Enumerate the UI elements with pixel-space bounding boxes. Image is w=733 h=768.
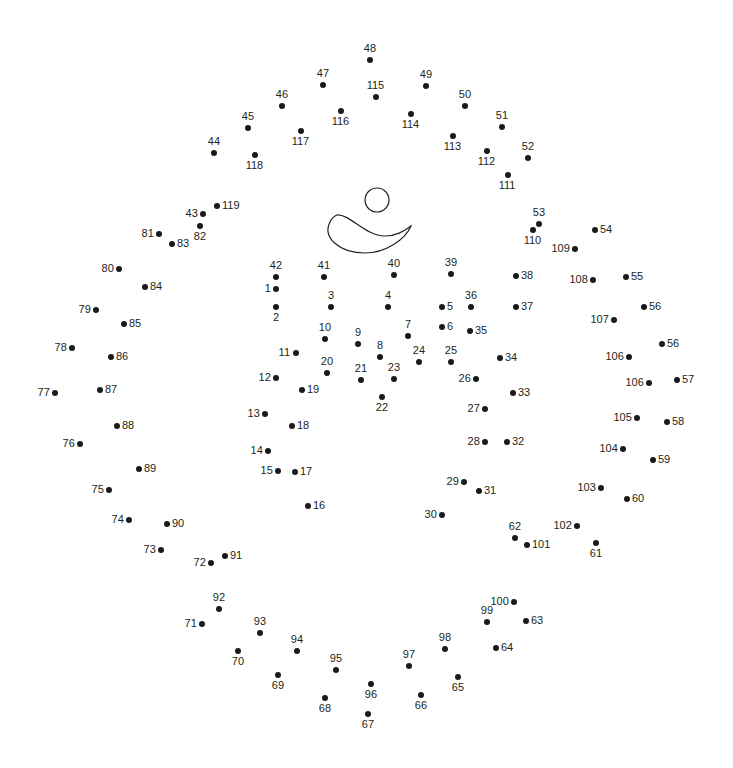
dot-36: [468, 304, 474, 310]
dot-30: [439, 512, 445, 518]
dot-label: 111: [499, 180, 516, 191]
dot-87: [97, 387, 103, 393]
dot-74: [126, 517, 132, 523]
dot-71: [199, 621, 205, 627]
dot-85: [121, 321, 127, 327]
dot-label: 33: [518, 387, 530, 398]
dot-label: 82: [194, 231, 206, 242]
dot-label: 62: [509, 521, 521, 532]
dot-label: 77: [38, 387, 50, 398]
dot-label: 48: [364, 43, 376, 54]
dot-79: [93, 307, 99, 313]
dot-label: 102: [553, 520, 571, 531]
dot-label: 57: [682, 374, 694, 385]
dot-46: [279, 103, 285, 109]
dot-label: 114: [402, 119, 420, 130]
dot-label: 67: [362, 719, 374, 730]
dot-label: 79: [79, 304, 91, 315]
dot-86: [108, 354, 114, 360]
dot-82: [197, 223, 203, 229]
dot-label: 44: [208, 136, 220, 147]
dot-54: [592, 227, 598, 233]
dot-label: 98: [439, 632, 451, 643]
dot-label: 50: [459, 89, 471, 100]
dot-label: 112: [478, 156, 496, 167]
dot-114: [408, 111, 414, 117]
dot-label: 11: [279, 347, 290, 358]
dot-15: [275, 468, 281, 474]
dot-label: 86: [116, 351, 128, 362]
dot-3: [328, 304, 334, 310]
dot-96: [368, 681, 374, 687]
dot-label: 108: [569, 274, 587, 285]
dot-62: [512, 535, 518, 541]
dot-20: [324, 370, 330, 376]
dot-label: 119: [222, 200, 240, 211]
dot-91: [222, 553, 228, 559]
dot-26: [473, 376, 479, 382]
dot-label: 70: [232, 656, 244, 667]
dot-to-dot-canvas: 1234567891011121314151617181920212223242…: [0, 0, 733, 768]
dot-14: [265, 448, 271, 454]
dot-98: [442, 646, 448, 652]
dot-76: [77, 441, 83, 447]
dot-24: [416, 359, 422, 365]
dot-label: 45: [242, 111, 254, 122]
dot-label: 81: [142, 228, 154, 239]
dot-label: 27: [468, 403, 480, 414]
dot-8: [377, 354, 383, 360]
dot-label: 37: [521, 301, 533, 312]
dot-label: 54: [600, 224, 612, 235]
dot-label: 4: [385, 290, 391, 301]
dot-label: 21: [355, 363, 367, 374]
dot-label: 61: [590, 548, 602, 559]
dot-label: 22: [376, 402, 388, 413]
dot-77: [52, 390, 58, 396]
dot-label: 56: [667, 338, 679, 349]
dot-43: [200, 211, 206, 217]
dot-118: [252, 152, 258, 158]
dot-95: [333, 667, 339, 673]
dot-label: 2: [273, 312, 279, 323]
dot-label: 59: [658, 454, 670, 465]
dot-label: 66: [415, 700, 427, 711]
dot-29: [461, 479, 467, 485]
dot-101: [524, 542, 530, 548]
dot-label: 90: [172, 518, 184, 529]
dot-label: 118: [246, 160, 264, 171]
dot-41: [321, 274, 327, 280]
dot-51: [499, 124, 505, 130]
dot-17: [292, 469, 298, 475]
dot-label: 69: [272, 680, 284, 691]
dot-label: 94: [291, 634, 303, 645]
dot-label: 89: [144, 463, 156, 474]
dot-label: 107: [590, 314, 608, 325]
dot-111: [505, 172, 511, 178]
dot-6: [439, 324, 445, 330]
dot-7: [405, 333, 411, 339]
dot-19: [299, 387, 305, 393]
dot-label: 101: [532, 539, 550, 550]
dot-4: [385, 304, 391, 310]
dot-40: [391, 272, 397, 278]
dot-72: [208, 560, 214, 566]
dot-label: 55: [631, 271, 643, 282]
dot-label: 12: [259, 372, 271, 383]
dot-100: [511, 599, 517, 605]
dot-label: 19: [307, 384, 319, 395]
dot-35: [467, 328, 473, 334]
dot-89: [136, 466, 142, 472]
dot-39: [448, 271, 454, 277]
dot-68: [322, 695, 328, 701]
dot-label: 31: [484, 485, 496, 496]
dot-label: 72: [194, 557, 206, 568]
dot-label: 93: [254, 616, 266, 627]
dot-label: 13: [248, 408, 260, 419]
dot-label: 1: [265, 283, 271, 294]
dot-label: 16: [313, 500, 325, 511]
dot-80: [116, 266, 122, 272]
dot-11: [293, 350, 299, 356]
dot-label: 38: [521, 270, 533, 281]
dot-56: [659, 341, 665, 347]
dot-45: [245, 125, 251, 131]
